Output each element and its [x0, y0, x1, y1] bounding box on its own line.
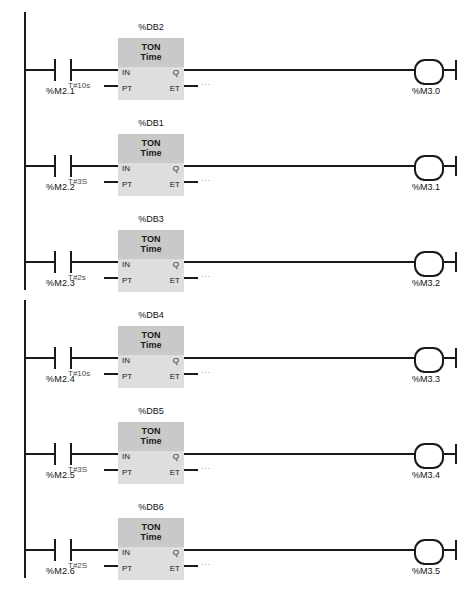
- coil-arc-right: [429, 251, 444, 277]
- et-stub: [184, 277, 198, 279]
- coil-arc-right: [429, 539, 444, 565]
- rung-group: %M2.4%DB4TONTimeINPTQETT#10s...%M3.3%M2.…: [0, 300, 472, 588]
- rung-wire-mid: [71, 357, 118, 359]
- et-value: ...: [201, 366, 211, 375]
- et-value: ...: [201, 462, 211, 471]
- port-pt: PT: [122, 468, 132, 477]
- rung-wire-mid: [71, 165, 118, 167]
- rung: %M2.1%DB2TONTimeINPTQETT#10s...%M3.0: [0, 12, 472, 108]
- function-block-ton[interactable]: TONTimeINPTQET: [118, 38, 184, 100]
- port-q: Q: [173, 356, 179, 365]
- et-value: ...: [201, 558, 211, 567]
- pt-stub: [104, 373, 118, 375]
- coil-M35[interactable]: %M3.5: [414, 539, 444, 561]
- port-in: IN: [122, 164, 130, 173]
- port-pt: PT: [122, 276, 132, 285]
- db-label: %DB6: [118, 502, 184, 512]
- et-value: ...: [201, 174, 211, 183]
- function-block-subtitle: Time: [141, 341, 162, 350]
- function-block-header: TONTime: [118, 38, 184, 67]
- et-stub: [184, 85, 198, 87]
- ladder-diagram: %M2.1%DB2TONTimeINPTQETT#10s...%M3.0%M2.…: [0, 0, 472, 593]
- function-block-ton[interactable]: TONTimeINPTQET: [118, 326, 184, 388]
- rung-wire-right: [184, 69, 414, 71]
- port-q: Q: [173, 260, 179, 269]
- pt-value: T#3S: [68, 465, 87, 474]
- port-q: Q: [173, 164, 179, 173]
- et-stub: [184, 565, 198, 567]
- rung-wire-right: [184, 357, 414, 359]
- port-in: IN: [122, 548, 130, 557]
- coil-label: %M3.1: [412, 182, 440, 192]
- function-block-ton[interactable]: TONTimeINPTQET: [118, 134, 184, 196]
- function-block-subtitle: Time: [141, 437, 162, 446]
- function-block-body: INPTQET: [118, 67, 184, 100]
- contact-bar-left: [54, 347, 56, 369]
- coil-M34[interactable]: %M3.4: [414, 443, 444, 465]
- db-label: %DB3: [118, 214, 184, 224]
- coil-arc-left: [414, 443, 429, 469]
- function-block-body: INPTQET: [118, 547, 184, 580]
- function-block-body: INPTQET: [118, 451, 184, 484]
- function-block-ton[interactable]: TONTimeINPTQET: [118, 230, 184, 292]
- coil-label: %M3.5: [412, 566, 440, 576]
- et-stub: [184, 181, 198, 183]
- function-block-header: TONTime: [118, 518, 184, 547]
- db-label: %DB2: [118, 22, 184, 32]
- rung-end-tick: [455, 348, 457, 368]
- rung-wire-mid: [71, 549, 118, 551]
- coil-label: %M3.0: [412, 86, 440, 96]
- pt-stub: [104, 181, 118, 183]
- coil-label: %M3.4: [412, 470, 440, 480]
- port-in: IN: [122, 68, 130, 77]
- contact-bar-left: [54, 251, 56, 273]
- function-block-header: TONTime: [118, 134, 184, 163]
- function-block-subtitle: Time: [141, 533, 162, 542]
- coil-M33[interactable]: %M3.3: [414, 347, 444, 369]
- function-block-ton[interactable]: TONTimeINPTQET: [118, 518, 184, 580]
- rung-end-tick: [455, 156, 457, 176]
- function-block-body: INPTQET: [118, 355, 184, 388]
- rung-wire-mid: [71, 261, 118, 263]
- pt-stub: [104, 565, 118, 567]
- rung-end-tick: [455, 540, 457, 560]
- et-value: ...: [201, 270, 211, 279]
- pt-stub: [104, 277, 118, 279]
- pt-value: T#10s: [68, 369, 90, 378]
- port-pt: PT: [122, 84, 132, 93]
- port-q: Q: [173, 68, 179, 77]
- coil-arc-left: [414, 59, 429, 85]
- port-et: ET: [170, 276, 180, 285]
- pt-stub: [104, 469, 118, 471]
- coil-arc-left: [414, 347, 429, 373]
- coil-label: %M3.3: [412, 374, 440, 384]
- rung-wire-mid: [71, 453, 118, 455]
- port-et: ET: [170, 180, 180, 189]
- function-block-subtitle: Time: [141, 245, 162, 254]
- coil-arc-left: [414, 539, 429, 565]
- rung-wire-mid: [71, 69, 118, 71]
- pt-value: T#3S: [68, 177, 87, 186]
- function-block-body: INPTQET: [118, 163, 184, 196]
- rung-wire-end: [444, 549, 455, 551]
- rung-wire-end: [444, 453, 455, 455]
- et-stub: [184, 469, 198, 471]
- rung-wire-end: [444, 69, 455, 71]
- function-block-header: TONTime: [118, 422, 184, 451]
- contact-bar-left: [54, 443, 56, 465]
- coil-arc-right: [429, 59, 444, 85]
- rung: %M2.4%DB4TONTimeINPTQETT#10s...%M3.3: [0, 300, 472, 396]
- port-pt: PT: [122, 180, 132, 189]
- port-in: IN: [122, 452, 130, 461]
- coil-M30[interactable]: %M3.0: [414, 59, 444, 81]
- rung-wire-end: [444, 357, 455, 359]
- rung-end-tick: [455, 60, 457, 80]
- rung-end-tick: [455, 444, 457, 464]
- function-block-ton[interactable]: TONTimeINPTQET: [118, 422, 184, 484]
- function-block-header: TONTime: [118, 230, 184, 259]
- coil-M31[interactable]: %M3.1: [414, 155, 444, 177]
- rung: %M2.6%DB6TONTimeINPTQETT#2S...%M3.5: [0, 492, 472, 588]
- coil-label: %M3.2: [412, 278, 440, 288]
- function-block-subtitle: Time: [141, 149, 162, 158]
- coil-M32[interactable]: %M3.2: [414, 251, 444, 273]
